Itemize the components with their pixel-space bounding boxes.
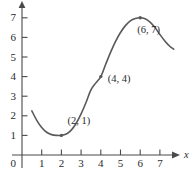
x-axis-arrow-icon: [172, 152, 180, 159]
y-tick-label: 6: [3, 32, 16, 43]
x-tick-label: 5: [113, 158, 129, 169]
origin-label: 0: [6, 158, 16, 169]
point-marker-inflection-point: [99, 75, 102, 78]
y-tick-label: 2: [3, 110, 16, 121]
x-tick-label: 7: [152, 158, 168, 169]
point-label-inflection-point: (4, 4): [108, 74, 131, 85]
x-tick-label: 2: [53, 158, 69, 169]
x-tick-label: 4: [93, 158, 109, 169]
y-tick-label: 7: [3, 12, 16, 23]
y-tick-label: 1: [3, 130, 16, 141]
function-curve: [32, 18, 174, 136]
y-axis-arrow-icon: [19, 1, 26, 8]
y-tick-label: 3: [3, 91, 16, 102]
point-marker-local-minimum: [60, 134, 63, 137]
point-marker-local-maximum: [139, 16, 142, 19]
graph-figure: 1234567 1234567 0 x (2, 1)(4, 4)(6, 7): [0, 0, 194, 180]
x-tick-label: 3: [73, 158, 89, 169]
point-label-local-minimum: (2, 1): [67, 116, 90, 127]
point-label-local-maximum: (6, 7): [137, 25, 160, 36]
x-tick-label: 1: [34, 158, 50, 169]
x-tick-label: 6: [132, 158, 148, 169]
y-tick-label: 4: [3, 71, 16, 82]
y-tick-marks: [22, 18, 28, 136]
x-axis-label: x: [184, 150, 189, 161]
x-tick-marks: [42, 150, 160, 156]
plot-area: [0, 0, 194, 180]
y-tick-label: 5: [3, 52, 16, 63]
